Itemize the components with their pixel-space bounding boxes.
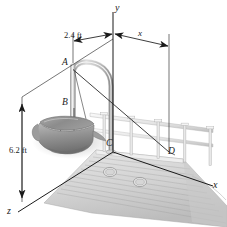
deck-hole: [104, 167, 117, 176]
point-label-c: C: [106, 138, 112, 148]
dimension-6-2-ft: 6.2 ft: [9, 145, 27, 155]
dimension-2-4-ft: 2.4 ft: [64, 30, 82, 40]
figure-canvas: y x z 2.4 ft x 6.2 ft A B C D: [0, 0, 227, 227]
diagram-svg: [0, 0, 227, 227]
deck-hole: [134, 177, 147, 186]
y-axis-label: y: [115, 2, 119, 13]
point-label-d: D: [168, 146, 175, 156]
point-label-b: B: [62, 97, 68, 107]
ship-deck: [44, 150, 227, 227]
z-axis-label: z: [7, 205, 11, 216]
cable-a-to-b: [74, 70, 86, 120]
dimension-x: x: [138, 28, 142, 38]
x-axis-label: x: [213, 179, 217, 190]
point-label-a: A: [62, 57, 68, 67]
